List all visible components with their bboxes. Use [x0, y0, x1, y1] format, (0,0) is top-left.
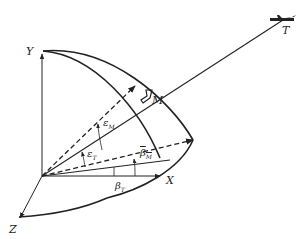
epsilon-t-label: εT	[87, 149, 96, 161]
epsilon-m-label: εM	[103, 118, 115, 130]
beta-t-sub: T	[121, 186, 125, 193]
beta-m-label: βM	[140, 148, 152, 160]
projection-solid	[42, 160, 170, 176]
missile-velocity-dashed	[42, 86, 135, 176]
epsilon-t-sub: T	[92, 154, 96, 161]
z-axis	[20, 176, 42, 218]
diagram-canvas	[0, 0, 303, 239]
inner-arc-top	[43, 51, 160, 158]
epsilon-t-arc	[82, 152, 85, 167]
beta-t-label: βT	[115, 181, 125, 193]
z-axis-label: Z	[9, 224, 17, 235]
bottom-arc	[19, 198, 107, 217]
target-label: T	[282, 25, 289, 36]
beta-m-arc	[134, 159, 135, 176]
beta-m-sub: M	[146, 153, 152, 160]
epsilon-m-sub: M	[108, 123, 114, 130]
y-axis-label: Y	[26, 46, 33, 57]
projection-dashed	[42, 140, 193, 176]
x-axis-label: X	[166, 175, 174, 186]
missile-icon	[141, 90, 152, 103]
target-aircraft-icon	[270, 15, 296, 21]
missile-label: M	[152, 95, 163, 106]
